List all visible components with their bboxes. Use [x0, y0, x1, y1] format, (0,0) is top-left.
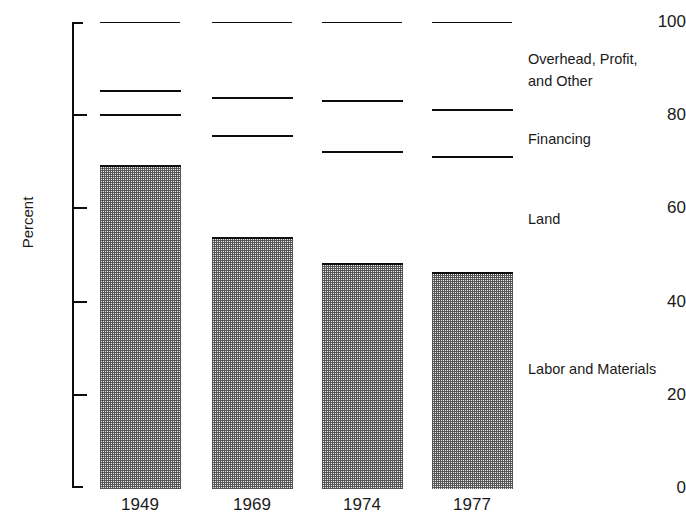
stacked-bar-chart: 100806040200 Percent 1949196919741977 Ov… [0, 0, 686, 529]
bar-segment[interactable] [100, 116, 181, 167]
bar-segment[interactable] [212, 239, 293, 488]
bar-segment[interactable] [322, 153, 403, 265]
bar-stack [322, 22, 402, 488]
bar-segment[interactable] [432, 23, 513, 112]
bar-segment[interactable] [322, 23, 403, 102]
bar-segment[interactable] [212, 99, 293, 136]
legend-item-label: Land [528, 208, 560, 230]
bar-segment[interactable] [322, 102, 403, 153]
bar-group[interactable] [432, 22, 512, 488]
bar-segment[interactable] [100, 23, 181, 93]
bar-segment[interactable] [100, 167, 181, 489]
legend-item-label: Overhead, Profit, and Other [528, 48, 638, 93]
bar-segment[interactable] [432, 274, 513, 488]
x-axis-tick-label: 1974 [322, 496, 402, 513]
legend-item-label: Financing [528, 128, 591, 150]
bar-group[interactable] [322, 22, 402, 488]
x-axis-tick-label: 1969 [212, 496, 292, 513]
bar-segment[interactable] [432, 111, 513, 158]
bar-group[interactable] [212, 22, 292, 488]
bar-segment[interactable] [432, 158, 513, 275]
bar-segment[interactable] [212, 137, 293, 240]
legend-item-label: Labor and Materials [528, 358, 656, 380]
x-axis-tick-label: 1977 [432, 496, 512, 513]
bar-segment[interactable] [322, 265, 403, 489]
bar-stack [100, 22, 180, 488]
bar-group[interactable] [100, 22, 180, 488]
bar-stack [212, 22, 292, 488]
bar-stack [432, 22, 512, 488]
bar-segment[interactable] [212, 23, 293, 100]
bar-segment[interactable] [100, 92, 181, 115]
x-axis-tick-label: 1949 [100, 496, 180, 513]
